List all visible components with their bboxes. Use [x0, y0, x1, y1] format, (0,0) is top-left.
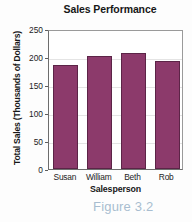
y-axis-tick-label: 200	[19, 54, 43, 63]
chart-title: Sales Performance	[34, 3, 186, 15]
y-axis-tick	[45, 170, 48, 171]
x-axis-tick-label: Rob	[149, 172, 183, 182]
x-axis-tick-labels: SusanWilliamBethRob	[48, 172, 183, 184]
y-axis-tick-label: 0	[19, 166, 43, 175]
figure-container: Sales Performance Total Sales (Thousands…	[0, 0, 192, 222]
bar	[53, 65, 78, 169]
x-axis-tick-label: William	[82, 172, 116, 182]
bar	[87, 56, 112, 169]
bar	[155, 61, 180, 169]
bar-series	[49, 31, 182, 169]
figure-caption: Figure 3.2	[93, 199, 189, 214]
y-axis-tick-label: 50	[19, 138, 43, 147]
bar	[121, 53, 146, 169]
x-axis-tick-label: Beth	[116, 172, 150, 182]
y-axis-label-container: Total Sales (Thousands of Dollars)	[6, 23, 18, 173]
x-axis-tick-label: Susan	[48, 172, 82, 182]
plot-area	[48, 30, 183, 170]
x-axis-label: Salesperson	[48, 184, 183, 194]
y-axis-tick-label: 150	[19, 82, 43, 91]
y-axis-tick-label: 100	[19, 110, 43, 119]
y-axis-tick-labels: 050100150200250	[18, 30, 43, 170]
y-axis-tick-label: 250	[19, 26, 43, 35]
